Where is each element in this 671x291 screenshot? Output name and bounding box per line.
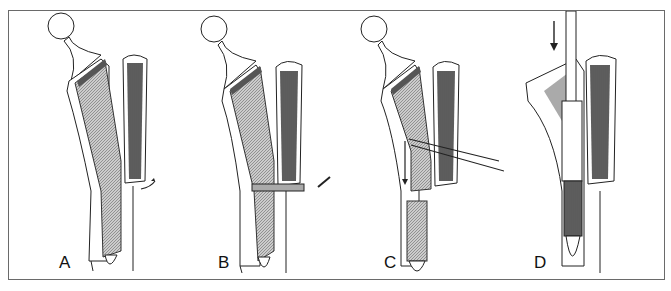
panel-label-b: B [218, 253, 229, 273]
panel-label-d: D [534, 253, 546, 273]
femur-prosthesis-drawing-a [9, 11, 174, 279]
curved-arrow-icon [151, 178, 155, 181]
panel-b: B [174, 11, 339, 279]
down-arrow-icon [550, 43, 558, 51]
panel-c: C [339, 11, 504, 279]
femur-prosthesis-drawing-b [174, 11, 339, 279]
arrow-icon [318, 177, 330, 187]
panel-d: D [504, 11, 664, 279]
femur-prosthesis-drawing-d [504, 11, 664, 279]
femur-prosthesis-drawing-c [339, 11, 504, 279]
panel-label-c: C [384, 253, 396, 273]
panel-label-a: A [59, 253, 70, 273]
figure-frame: A B [8, 10, 665, 280]
panel-a: A [9, 11, 174, 279]
